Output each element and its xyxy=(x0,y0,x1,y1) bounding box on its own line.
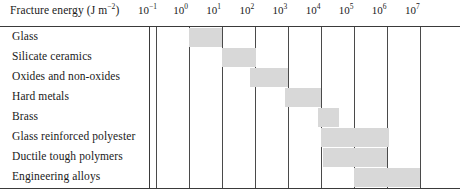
chart-row: Glass xyxy=(0,27,460,47)
range-bar-5 xyxy=(321,128,389,147)
axis-title-suffix: ) xyxy=(115,4,119,16)
range-bar-7 xyxy=(354,168,420,187)
axis-title-text: Fracture energy (J m xyxy=(10,4,107,16)
tick-exponent: 7 xyxy=(416,2,420,11)
tick-exponent: 1 xyxy=(217,2,221,11)
tick-label-8: 107 xyxy=(405,4,420,16)
tick-base: 10 xyxy=(206,4,217,16)
tick-label-6: 105 xyxy=(339,4,354,16)
tick-exponent: 0 xyxy=(184,2,188,11)
tick-base: 10 xyxy=(273,4,284,16)
range-bar-1 xyxy=(222,48,257,67)
tick-exponent: 3 xyxy=(284,2,288,11)
tick-exponent: 2 xyxy=(250,2,254,11)
chart-row: Glass reinforced polyester xyxy=(0,127,460,147)
tick-exponent: −1 xyxy=(149,2,157,11)
range-bar-3 xyxy=(285,88,321,107)
tick-label-2: 101 xyxy=(206,4,221,16)
chart-row: Engineering alloys xyxy=(0,167,460,187)
label-plot-divider xyxy=(149,27,150,188)
range-bar-4 xyxy=(318,108,340,127)
row-label-0: Glass xyxy=(12,30,38,42)
tick-base: 10 xyxy=(339,4,350,16)
tick-label-5: 104 xyxy=(306,4,321,16)
tick-base: 10 xyxy=(138,4,149,16)
chart-row: Oxides and non-oxides xyxy=(0,67,460,87)
chart-row: Brass xyxy=(0,107,460,127)
range-bar-6 xyxy=(323,148,388,167)
tick-label-7: 106 xyxy=(372,4,387,16)
tick-base: 10 xyxy=(306,4,317,16)
tick-label-0: 10−1 xyxy=(138,4,157,16)
range-bar-0 xyxy=(189,28,222,47)
row-label-3: Hard metals xyxy=(12,90,69,102)
row-label-7: Engineering alloys xyxy=(12,170,100,182)
tick-label-4: 103 xyxy=(273,4,288,16)
chart-header: Fracture energy (J m−2) 10−1100101102103… xyxy=(0,0,460,26)
chart-row: Hard metals xyxy=(0,87,460,107)
row-label-1: Silicate ceramics xyxy=(12,50,92,62)
chart-row: Ductile tough polymers xyxy=(0,147,460,167)
tick-base: 10 xyxy=(239,4,250,16)
range-bar-2 xyxy=(250,68,288,87)
plot-area: GlassSilicate ceramicsOxides and non-oxi… xyxy=(0,27,460,188)
row-label-4: Brass xyxy=(12,110,38,122)
fracture-energy-chart: Fracture energy (J m−2) 10−1100101102103… xyxy=(0,0,460,195)
tick-base: 10 xyxy=(173,4,184,16)
row-label-2: Oxides and non-oxides xyxy=(12,70,120,82)
tick-label-1: 100 xyxy=(173,4,188,16)
row-label-5: Glass reinforced polyester xyxy=(12,130,135,142)
chart-row: Silicate ceramics xyxy=(0,47,460,67)
tick-label-3: 102 xyxy=(239,4,254,16)
tick-exponent: 5 xyxy=(350,2,354,11)
tick-exponent: 6 xyxy=(383,2,387,11)
axis-title: Fracture energy (J m−2) xyxy=(10,4,119,16)
tick-base: 10 xyxy=(405,4,416,16)
bottom-rule xyxy=(0,188,460,189)
tick-base: 10 xyxy=(372,4,383,16)
row-label-6: Ductile tough polymers xyxy=(12,150,123,162)
tick-exponent: 4 xyxy=(317,2,321,11)
